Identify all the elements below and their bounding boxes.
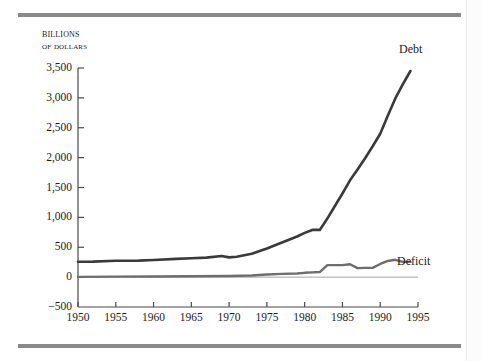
y-tick-label: 3,000 bbox=[26, 92, 72, 104]
y-tick-label-text: 500 bbox=[26, 241, 72, 253]
y-tick-label-text: 2,500 bbox=[26, 122, 72, 134]
series-line-debt bbox=[78, 71, 410, 262]
y-tick-label-text: 1,000 bbox=[26, 211, 72, 223]
y-tick-label-text: 1,500 bbox=[26, 182, 72, 194]
series-label-debt: Debt bbox=[399, 43, 422, 55]
y-tick-label: 500 bbox=[26, 241, 72, 253]
y-tick-label: 3,500 bbox=[26, 62, 72, 74]
y-tick-label: 2,000 bbox=[26, 152, 72, 164]
y-tick-label: 1,000 bbox=[26, 211, 72, 223]
figure-chart-debt-deficit: Billions of dollars Debt Deficit −500050… bbox=[0, 0, 482, 361]
x-tick-label: 1995 bbox=[396, 311, 440, 323]
y-tick-label-text: 2,000 bbox=[26, 152, 72, 164]
y-tick-label-text: 0 bbox=[26, 271, 72, 283]
y-tick-label: 2,500 bbox=[26, 122, 72, 134]
y-tick-label-text: 3,500 bbox=[26, 62, 72, 74]
y-tick-label: 0 bbox=[26, 271, 72, 283]
y-tick-label-text: 3,000 bbox=[26, 92, 72, 104]
series-label-deficit: Deficit bbox=[397, 255, 430, 267]
series-line-deficit bbox=[78, 260, 410, 277]
y-tick-label: 1,500 bbox=[26, 182, 72, 194]
